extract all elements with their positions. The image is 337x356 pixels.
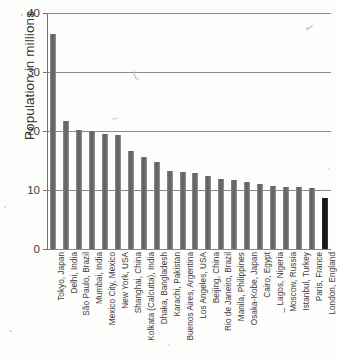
x-tick-label: London, England [328,252,337,315]
bar [218,179,224,249]
x-tick-label: Cairo, Egypt [263,252,272,298]
bar [192,173,198,249]
x-tick-label: Rio de Janeiro, Brazil [224,252,233,331]
bar [257,184,263,249]
bar [115,135,121,249]
bar [309,188,315,249]
bar [244,182,250,249]
y-tick-label: 20 [27,125,40,137]
bar [141,157,147,249]
x-tick-label: Moscow, Russia [289,252,298,312]
x-tick-label: Mexico City, Mexico [108,252,117,325]
x-axis-line [47,249,331,250]
x-tick-label: Los Angeles, USA [199,252,208,319]
y-tick-mark [43,249,47,250]
x-tick-label: Kolkata (Calcutta), India [147,252,156,341]
x-tick-label: Paris, France [315,252,324,301]
bar [322,198,328,249]
y-tick-label: 30 [27,66,40,78]
bar [270,186,276,249]
bar [231,180,237,249]
bar [102,134,108,249]
bars-layer [47,13,331,249]
bar [63,121,69,249]
bar [167,171,173,249]
bar [89,131,95,249]
x-tick-label: New York, USA [121,252,130,309]
x-tick-label: Osaka-Kobe, Japan [250,252,259,325]
x-tick-label: Delhi, India [70,252,79,294]
bar [50,34,56,249]
x-tick-label: Shanghai, China [134,252,143,313]
x-tick-label: Beijing, China [212,252,221,303]
plot-area: 010203040 [47,13,331,249]
x-tick-label: São Paulo, Brazil [82,252,91,316]
y-tick-label: 10 [27,184,40,196]
bar [76,130,82,249]
y-tick-label: 40 [27,7,40,19]
y-tick-label: 0 [34,243,40,255]
bar [283,187,289,249]
x-tick-label: Mumbai, India [95,252,104,304]
x-axis-labels: Tokyo, JapanDelhi, IndiaSão Paulo, Brazi… [47,252,331,356]
bar [128,151,134,249]
x-tick-label: Karachi, Pakistan [173,252,182,317]
x-tick-label: Buenos Aires, Argentina [186,252,195,341]
x-tick-label: Dhaka, Bangladesh [160,252,169,324]
bar [180,172,186,249]
bar [296,187,302,249]
x-tick-label: Tokyo, Japan [57,252,66,301]
bar [154,162,160,249]
x-tick-label: Istanbul, Turkey [302,252,311,311]
bar [205,176,211,249]
x-tick-label: Manila, Philippines [237,252,246,321]
x-tick-label: _ Lagos, Nigeria [276,252,285,312]
